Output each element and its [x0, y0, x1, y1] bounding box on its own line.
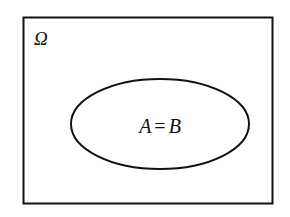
universe-label: Ω — [34, 28, 48, 49]
set-label: A=B — [137, 115, 181, 137]
universe-rectangle — [24, 18, 273, 204]
venn-diagram: Ω A=B — [0, 0, 290, 217]
